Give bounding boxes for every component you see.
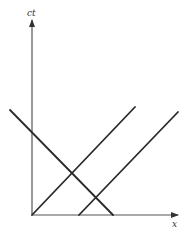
ct-axis-label: ct — [27, 9, 36, 18]
worldline-from-origin — [32, 107, 135, 215]
spacetime-diagram — [0, 0, 190, 239]
worldline-descending — [10, 110, 113, 215]
worldline-offset — [79, 112, 178, 215]
worldlines — [10, 107, 178, 215]
x-axis-label: x — [172, 220, 177, 229]
